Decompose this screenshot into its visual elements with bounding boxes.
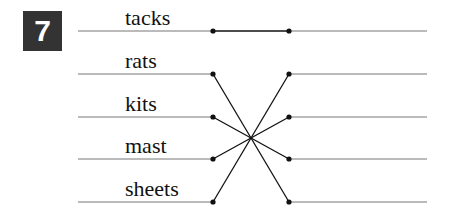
connector-lines bbox=[213, 31, 289, 202]
answer-lines bbox=[78, 31, 427, 202]
endpoint-dots bbox=[210, 28, 291, 204]
matching-diagram bbox=[0, 0, 451, 216]
